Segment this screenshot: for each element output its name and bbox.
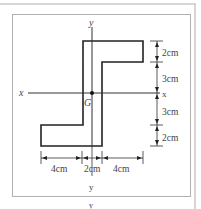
y-label-below-frame: y [89, 201, 93, 209]
y-axis-label-bottom: y [89, 182, 94, 192]
z-section-diagram: y x x G 2cm 3cm 3cm 2cm 4cm 2cm 4cm y y [0, 0, 201, 209]
x-axis-label-left: x [18, 87, 24, 98]
centroid-point [90, 91, 94, 95]
diagram-canvas: y x x G 2cm 3cm 3cm 2cm 4cm 2cm 4cm y y [0, 0, 201, 209]
dim-right-3: 3cm [162, 107, 179, 117]
dim-bottom-1: 4cm [51, 164, 68, 174]
dim-right-1: 2cm [162, 48, 179, 58]
dim-bottom-3: 4cm [113, 164, 130, 174]
dim-bottom-2: 2cm [84, 164, 101, 174]
x-axis-label-right: x [162, 89, 167, 99]
dim-right-2: 3cm [162, 74, 179, 84]
dim-right-4: 2cm [162, 133, 179, 143]
centroid-label: G [84, 97, 91, 108]
y-axis-label-top: y [88, 17, 94, 28]
